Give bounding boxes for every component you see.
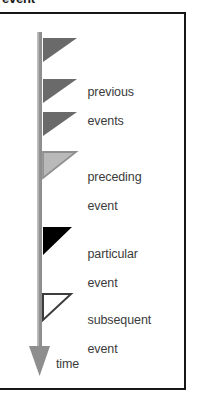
particular-event-label-line2: event: [88, 276, 118, 290]
previous-event-triangle-icon-3: [43, 112, 77, 136]
subsequent-event-label: subsequent event: [74, 298, 151, 371]
previous-events-label: previous events: [74, 70, 134, 143]
preceding-event-label-line1: preceding: [88, 170, 142, 184]
subsequent-event-label-line1: subsequent: [88, 313, 152, 327]
particular-event-label: particular event: [74, 232, 138, 305]
time-axis-label: time: [56, 357, 79, 372]
subsequent-event-label-line2: event: [88, 342, 118, 356]
previous-events-label-line2: events: [88, 114, 124, 128]
particular-event-triangle-icon: [43, 227, 72, 255]
time-axis-arrowhead-icon: [29, 346, 50, 376]
preceding-event-label-line2: event: [88, 199, 118, 213]
previous-events-label-line1: previous: [88, 85, 134, 99]
previous-event-triangle-icon-1: [43, 38, 77, 62]
time-axis-shaft-highlight: [38, 32, 40, 348]
previous-event-triangle-icon-2: [43, 79, 77, 103]
subsequent-event-triangle-icon: [43, 294, 71, 320]
preceding-event-label: preceding event: [74, 155, 142, 228]
preceding-event-triangle-icon: [43, 152, 76, 178]
timeline-diagram: event previous events preceding event pa…: [0, 0, 198, 413]
particular-event-label-line1: particular: [88, 247, 138, 261]
